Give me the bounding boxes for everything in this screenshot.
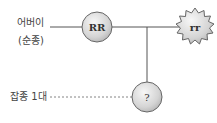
parent-rr-recessive-node: rr (176, 8, 214, 44)
parent-rr-recessive-genotype: rr (190, 22, 201, 33)
parent-rr-genotype: RR (89, 22, 106, 33)
parent-rr-node: RR (82, 12, 112, 42)
offspring-genotype: ? (144, 92, 149, 103)
offspring-node: ? (132, 82, 162, 112)
cross-diagram: RR rr ? (0, 0, 217, 123)
